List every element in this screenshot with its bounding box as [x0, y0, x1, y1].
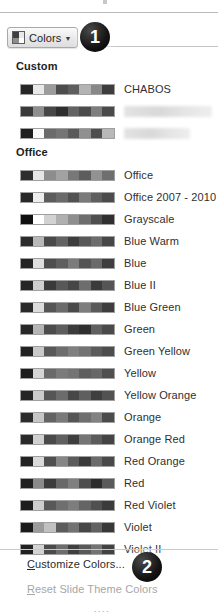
swatch-cell	[91, 457, 103, 466]
theme-color-row[interactable]: Red Orange	[0, 451, 218, 471]
swatch-cell	[56, 281, 68, 290]
swatch-cell	[68, 523, 80, 532]
reset-slide-theme-colors-command[interactable]: Reset Slide Theme Colors	[27, 583, 158, 595]
swatch-cell	[21, 281, 33, 290]
swatch-cell	[44, 129, 56, 138]
theme-color-row[interactable]: Office	[0, 165, 218, 185]
theme-color-row[interactable]: Red	[0, 473, 218, 493]
theme-color-row[interactable]: Office 2007 - 2010	[0, 187, 218, 207]
swatch-cell	[33, 457, 45, 466]
swatch-cell	[68, 369, 80, 378]
theme-color-row[interactable]: Orange	[0, 407, 218, 427]
swatch-cell	[56, 501, 68, 510]
color-palette-icon	[12, 31, 25, 44]
swatch-cell	[68, 303, 80, 312]
theme-color-label-redacted	[124, 106, 212, 117]
theme-color-row[interactable]: Blue II	[0, 275, 218, 295]
theme-color-row[interactable]: Green	[0, 319, 218, 339]
theme-color-row[interactable]: Blue Green	[0, 297, 218, 317]
colors-button[interactable]: Colors ▼	[7, 27, 78, 48]
swatch-cell	[33, 347, 45, 356]
swatch-cell	[33, 325, 45, 334]
swatch-cell	[56, 479, 68, 488]
swatch-cell	[21, 107, 33, 116]
swatch-cell	[33, 85, 45, 94]
swatch-cell	[56, 391, 68, 400]
theme-color-label: CHABOS	[124, 83, 171, 95]
theme-color-row[interactable]	[0, 123, 218, 143]
swatch-cell	[33, 413, 45, 422]
swatch-cell	[79, 391, 91, 400]
theme-color-label: Green Yellow	[124, 345, 190, 357]
theme-color-row[interactable]: Orange Red	[0, 429, 218, 449]
theme-color-row[interactable]: CHABOS	[0, 79, 218, 99]
swatch-cell	[33, 501, 45, 510]
theme-color-row[interactable]: Blue	[0, 253, 218, 273]
swatch-cell	[56, 193, 68, 202]
swatch-cell	[79, 129, 91, 138]
swatch-cell	[68, 391, 80, 400]
swatch-cell	[56, 347, 68, 356]
swatch-cell	[91, 479, 103, 488]
theme-color-row[interactable]: Grayscale	[0, 209, 218, 229]
theme-color-label: Violet	[124, 521, 152, 533]
theme-color-swatch	[20, 170, 115, 181]
theme-color-row[interactable]: Green Yellow	[0, 341, 218, 361]
theme-color-swatch	[20, 84, 115, 95]
swatch-cell	[102, 259, 114, 268]
overflow-dots-icon[interactable]: ....	[94, 604, 110, 614]
theme-color-swatch	[20, 192, 115, 203]
swatch-cell	[33, 193, 45, 202]
theme-color-row[interactable]: Red Violet	[0, 495, 218, 515]
swatch-cell	[44, 457, 56, 466]
theme-color-row[interactable]: Violet	[0, 517, 218, 537]
swatch-cell	[102, 85, 114, 94]
swatch-cell	[56, 435, 68, 444]
swatch-cell	[79, 479, 91, 488]
theme-color-row[interactable]: Yellow Orange	[0, 385, 218, 405]
group-header-office: Office	[16, 146, 48, 158]
swatch-cell	[68, 457, 80, 466]
swatch-cell	[91, 85, 103, 94]
toolbar-artifact-mark	[103, 0, 107, 4]
swatch-cell	[102, 413, 114, 422]
swatch-cell	[91, 237, 103, 246]
swatch-cell	[68, 501, 80, 510]
swatch-cell	[33, 215, 45, 224]
swatch-cell	[21, 171, 33, 180]
swatch-cell	[44, 303, 56, 312]
swatch-cell	[21, 413, 33, 422]
swatch-cell	[33, 523, 45, 532]
swatch-cell	[21, 457, 33, 466]
theme-color-row[interactable]: Blue Warm	[0, 231, 218, 251]
colors-button-label: Colors	[29, 32, 61, 44]
swatch-cell	[56, 129, 68, 138]
theme-color-label: Yellow Orange	[124, 389, 196, 401]
swatch-cell	[21, 391, 33, 400]
swatch-cell	[33, 237, 45, 246]
swatch-cell	[44, 435, 56, 444]
swatch-cell	[102, 171, 114, 180]
theme-color-swatch	[20, 500, 115, 511]
swatch-cell	[102, 303, 114, 312]
swatch-cell	[44, 171, 56, 180]
theme-color-label: Orange	[124, 411, 161, 423]
theme-color-row[interactable]	[0, 101, 218, 121]
swatch-cell	[56, 259, 68, 268]
swatch-cell	[33, 435, 45, 444]
swatch-cell	[56, 369, 68, 378]
swatch-cell	[33, 107, 45, 116]
swatch-cell	[44, 391, 56, 400]
swatch-cell	[102, 281, 114, 290]
swatch-cell	[33, 479, 45, 488]
swatch-cell	[44, 523, 56, 532]
theme-color-row[interactable]: Yellow	[0, 363, 218, 383]
swatch-cell	[102, 457, 114, 466]
swatch-cell	[91, 215, 103, 224]
customize-colors-command[interactable]: Customize Colors...	[27, 558, 125, 570]
swatch-cell	[33, 391, 45, 400]
swatch-cell	[44, 413, 56, 422]
swatch-cell	[21, 85, 33, 94]
swatch-cell	[44, 215, 56, 224]
swatch-cell	[44, 259, 56, 268]
